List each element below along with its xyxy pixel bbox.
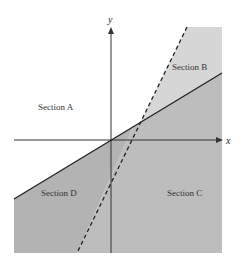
y-axis-arrow-icon [108,27,114,34]
section-b-label: Section B [172,62,207,72]
section-d-label: Section D [41,188,77,198]
section-c-label: Section C [167,188,202,198]
inequality-graph: y x Section A Section B Section C Sectio… [0,0,241,270]
section-a-label: Section A [38,102,74,112]
y-axis-label: y [107,14,113,25]
x-axis-label: x [225,135,231,146]
